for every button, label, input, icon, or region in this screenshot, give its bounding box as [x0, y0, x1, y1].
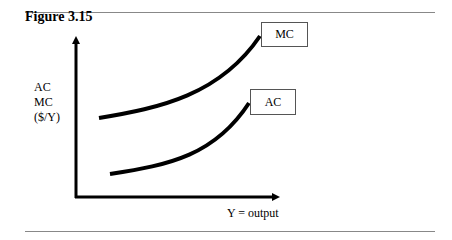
y-label-ac: AC [34, 80, 60, 95]
y-axis-label: AC MC ($/Y) [34, 80, 60, 125]
mc-curve [99, 36, 260, 118]
ac-label: AC [265, 95, 282, 110]
y-label-mc: MC [34, 95, 60, 110]
bottom-rule [25, 231, 435, 232]
x-axis-label: Y = output [227, 206, 279, 221]
y-label-units: ($/Y) [34, 110, 60, 125]
diagram-canvas [0, 0, 452, 240]
mc-label: MC [275, 27, 294, 42]
ac-label-box: AC [250, 89, 296, 115]
mc-label-box: MC [261, 22, 308, 47]
